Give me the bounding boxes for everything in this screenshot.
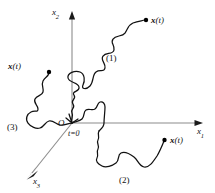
trajectory-path-3 [27, 73, 72, 128]
trajectory-path-2 [96, 131, 164, 167]
trajectory-path-1 [68, 20, 145, 123]
trajectory-3-endpoint-dot [47, 70, 51, 74]
x3-axis-label-sub: 3 [37, 182, 40, 189]
x2-axis-arrowhead [69, 11, 75, 20]
trajectory-1-endpoint-dot [144, 18, 148, 22]
trajectory-path-1-origin-hook [72, 102, 105, 131]
x3-axis-label: x3 [33, 177, 40, 188]
trajectory-1-state-label-t: (t) [156, 15, 165, 25]
trajectory-2-state-label-t: (t) [175, 135, 184, 145]
trajectory-3-number-label: (3) [7, 123, 18, 132]
trajectory-3-state-label: x(t) [8, 62, 21, 71]
trajectory-1-state-label: x(t) [151, 16, 164, 25]
x1-axis-label: x1 [197, 127, 204, 138]
x2-axis-label-sub: 2 [56, 13, 59, 20]
trajectory-2-endpoint-dot [162, 138, 166, 142]
stochastic-process-figure: x2 x1 x3 O t=0 (1) (2) (3) x(t) x(t) x(t… [0, 0, 215, 193]
x3-axis-line [32, 123, 72, 173]
trajectory-1-number-label: (1) [106, 54, 117, 63]
diagram-canvas [0, 0, 215, 193]
trajectory-2-number-label: (2) [119, 176, 130, 185]
x1-axis-label-sub: 1 [201, 132, 204, 139]
trajectory-2-state-label: x(t) [170, 136, 183, 145]
x2-axis-label: x2 [52, 8, 59, 19]
time-zero-label: t=0 [68, 130, 80, 138]
origin-symbol-label: O [58, 119, 65, 128]
trajectory-3-state-label-t: (t) [13, 61, 22, 71]
